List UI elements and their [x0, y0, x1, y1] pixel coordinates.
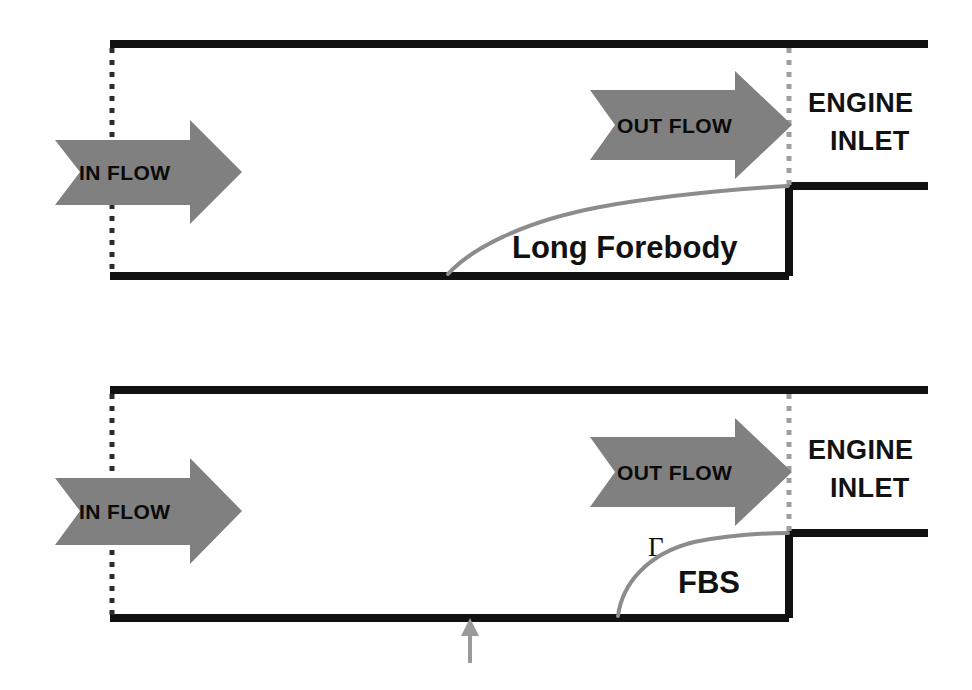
top-panel-engine-label-line1: ENGINE: [808, 88, 913, 118]
bottom-panel-engine-label-line1: ENGINE: [808, 435, 913, 465]
top-panel-inflow-label: IN FLOW: [79, 161, 170, 184]
diagram-stage: IN FLOW OUT FLOW ENGINE INLET Long Foreb…: [0, 0, 972, 690]
bottom-panel-inflow-label: IN FLOW: [79, 500, 170, 523]
bottom-panel-ground-pointer-icon: [461, 618, 479, 663]
schematic-diagram-canvas: IN FLOW OUT FLOW ENGINE INLET Long Foreb…: [0, 0, 972, 690]
bottom-panel-gamma-label: Γ: [648, 532, 664, 562]
bottom-panel-engine-label-line2: INLET: [830, 473, 910, 503]
top-panel-engine-label-line2: INLET: [830, 126, 910, 156]
bottom-panel-group: IN FLOW OUT FLOW ENGINE INLET Γ FBS: [55, 390, 928, 663]
top-panel-outflow-label: OUT FLOW: [617, 114, 732, 137]
top-panel-body-label: Long Forebody: [512, 230, 738, 265]
top-panel-group: IN FLOW OUT FLOW ENGINE INLET Long Foreb…: [55, 44, 928, 276]
bottom-panel-outflow-label: OUT FLOW: [617, 461, 732, 484]
bottom-panel-body-label: FBS: [678, 565, 740, 600]
